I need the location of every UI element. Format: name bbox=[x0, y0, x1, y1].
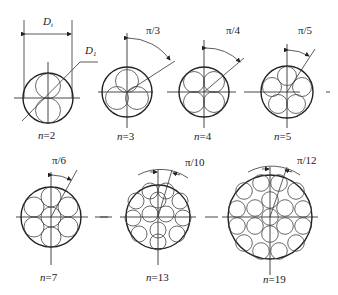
figure-n2: Dt D1 n=2 bbox=[14, 15, 98, 141]
n4-caption: n=4 bbox=[194, 130, 212, 142]
angle-arc bbox=[138, 169, 188, 178]
n13-caption: n=13 bbox=[146, 271, 169, 283]
inner-diameter-leader bbox=[22, 62, 80, 121]
n5-caption: n=5 bbox=[274, 130, 292, 142]
n19-angle-label: π/12 bbox=[297, 154, 317, 166]
angle-arc bbox=[52, 175, 71, 180]
n19-caption: n=19 bbox=[263, 273, 286, 285]
n2-caption: n=2 bbox=[38, 129, 55, 141]
figure-n19: π/12 n=19 bbox=[222, 154, 318, 285]
n4-angle-label: π/4 bbox=[226, 24, 241, 36]
n3-angle-label: π/3 bbox=[146, 24, 161, 36]
figure-n13: π/10 n=13 bbox=[100, 156, 218, 283]
n5-angle-label: π/5 bbox=[298, 24, 313, 36]
n7-caption: n=7 bbox=[40, 271, 58, 283]
n7-angle-label: π/6 bbox=[52, 154, 67, 166]
figure-n4: π/4 n=4 bbox=[167, 24, 244, 142]
outer-diameter-label: Dt bbox=[42, 15, 54, 29]
figure-n7: π/6 n=7 bbox=[16, 154, 108, 283]
strand-configuration-diagram: Dt D1 n=2 π/3 n=3 π/4 n=4 bbox=[0, 0, 338, 295]
figure-n3: π/3 n=3 bbox=[98, 24, 175, 142]
n13-angle-label: π/10 bbox=[185, 156, 205, 168]
angle-arc bbox=[248, 166, 300, 175]
angle-arc bbox=[206, 48, 240, 62]
n3-caption: n=3 bbox=[117, 130, 135, 142]
inner-diameter-label: D1 bbox=[84, 44, 96, 58]
figure-n5: π/5 n=5 bbox=[244, 24, 330, 142]
angle-arc bbox=[128, 38, 170, 60]
angle-arc bbox=[288, 50, 309, 56]
